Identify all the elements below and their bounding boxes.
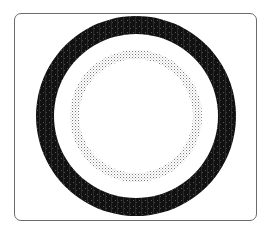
inner-dotted-ring: [70, 50, 202, 182]
outer-black-ring: [36, 16, 236, 216]
concentric-rings-figure: [0, 0, 274, 235]
